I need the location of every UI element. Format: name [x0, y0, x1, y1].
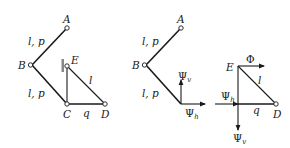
member-ed [238, 66, 276, 104]
label-bc-props: l, p [142, 87, 159, 99]
figure-middle: A B l, p l, p Ψv Ψh [131, 13, 205, 121]
label-psi-v: Ψv [178, 70, 191, 84]
figure-left: A B C D E l, p l, p l q [17, 13, 110, 120]
hinge-b-icon [142, 63, 146, 67]
node-label-b: B [131, 59, 140, 71]
node-label-a: A [62, 13, 71, 25]
node-label-b: B [17, 59, 26, 71]
label-phi: Φ [246, 53, 255, 65]
hinge-a-icon [179, 26, 183, 30]
structural-diagram: A B C D E l, p l, p l q A B l, p l, p Ψv… [0, 0, 290, 148]
node-label-d: D [272, 108, 282, 120]
hinge-e-icon [65, 64, 69, 68]
member-ed [67, 66, 105, 104]
label-bc-props: l, p [28, 87, 45, 99]
hinge-b-icon [28, 63, 32, 67]
hinge-a-icon [65, 26, 69, 30]
label-ed-length: l [89, 74, 92, 86]
figure-right: E D l q Φ Ψh Ψv [215, 53, 282, 146]
label-ed-length: l [258, 74, 261, 86]
hinge-d-icon [274, 102, 278, 106]
node-label-d: D [100, 108, 110, 120]
hinge-c-icon [65, 102, 69, 106]
wall-support-icon [62, 59, 65, 72]
label-cd-load: q [253, 104, 260, 116]
node-label-c: C [63, 108, 71, 120]
label-cd-load: q [83, 107, 90, 119]
label-psi-h: Ψh [221, 90, 235, 104]
hinge-d-icon [103, 102, 107, 106]
label-ab-props: l, p [142, 35, 159, 47]
label-psi-v: Ψv [233, 132, 246, 146]
node-label-a: A [176, 13, 185, 25]
node-label-e: E [70, 54, 79, 66]
label-psi-h: Ψh [185, 107, 199, 121]
label-ab-props: l, p [28, 35, 45, 47]
node-label-e: E [225, 61, 234, 73]
